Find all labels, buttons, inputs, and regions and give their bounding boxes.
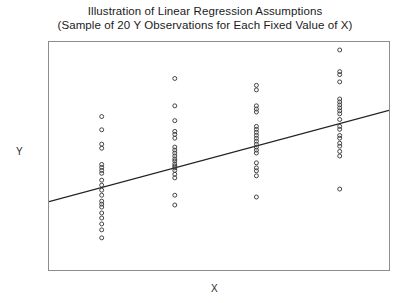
data-point [338, 136, 342, 140]
data-point [254, 83, 258, 87]
data-point [100, 228, 104, 232]
data-point [100, 178, 104, 182]
data-point [338, 118, 342, 122]
y-axis-label: Y [16, 146, 23, 157]
data-point [100, 211, 104, 215]
data-point [173, 203, 177, 207]
scatter-series-1 [100, 115, 104, 240]
data-point [338, 80, 342, 84]
chart-page: Illustration of Linear Regression Assump… [0, 0, 410, 303]
data-point [173, 104, 177, 108]
scatter-series-3 [254, 83, 258, 199]
data-point [338, 154, 342, 158]
data-point [100, 142, 104, 146]
data-point [173, 136, 177, 140]
chart-title: Illustration of Linear Regression Assump… [0, 4, 410, 32]
data-point [100, 146, 104, 150]
data-point [100, 222, 104, 226]
data-point [338, 149, 342, 153]
data-point [100, 216, 104, 220]
plot-area [48, 41, 390, 271]
scatter-points-group [100, 42, 389, 240]
data-point [100, 188, 104, 192]
chart-title-line-1: Illustration of Linear Regression Assump… [0, 4, 410, 18]
scatter-series-2 [173, 76, 177, 207]
x-axis-label: X [211, 283, 218, 294]
data-point [254, 195, 258, 199]
data-point [173, 76, 177, 80]
scatter-plot-canvas [49, 42, 389, 270]
data-point [338, 48, 342, 52]
data-point [100, 115, 104, 119]
scatter-series-4 [338, 48, 342, 191]
chart-title-line-2: (Sample of 20 Y Observations for Each Fi… [0, 18, 410, 32]
data-point [173, 193, 177, 197]
data-point [338, 187, 342, 191]
data-point [173, 168, 177, 172]
data-point [254, 161, 258, 165]
data-point [100, 183, 104, 187]
data-point [254, 88, 258, 92]
data-point [100, 236, 104, 240]
data-point [100, 128, 104, 132]
data-point [100, 193, 104, 197]
data-point [173, 119, 177, 123]
data-point [254, 174, 258, 178]
